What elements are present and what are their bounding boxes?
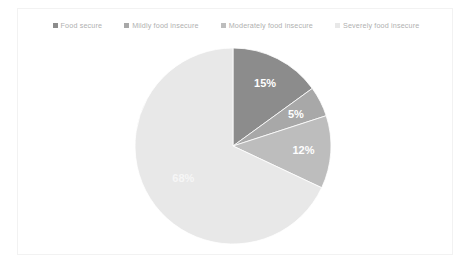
pie-data-label: 68% — [172, 172, 194, 184]
pie-data-label: 12% — [292, 144, 314, 156]
chart-frame: Food secure Mildly food insecure Moderat… — [17, 8, 453, 255]
pie-chart-svg: 15%5%12%68% — [133, 46, 333, 246]
pie-chart-plot-area: 15%5%12%68% — [18, 9, 454, 256]
pie-data-label: 15% — [254, 77, 276, 89]
pie-data-label: 5% — [288, 108, 304, 120]
